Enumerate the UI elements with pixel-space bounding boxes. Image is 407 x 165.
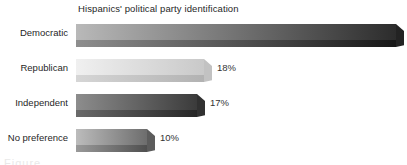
bar-row: No preference 10% xyxy=(0,127,407,162)
value-label-no-preference: 10% xyxy=(160,132,179,143)
caption-fragment: Figure xyxy=(4,157,41,165)
bar-republican xyxy=(76,59,204,84)
bar-top-face xyxy=(76,94,197,110)
chart-title: Hispanics' political party identificatio… xyxy=(78,3,239,14)
category-label-democratic: Democratic xyxy=(0,27,76,38)
bar-row: Republican 18% xyxy=(0,57,407,92)
bar-end-cap xyxy=(147,129,155,152)
bar-top-face xyxy=(76,24,396,40)
bar-end-cap-face xyxy=(197,94,205,117)
value-label-republican: 18% xyxy=(217,62,236,73)
bar-rows: Democratic 45% Republican 18% Independen… xyxy=(0,22,407,162)
bar-end-cap-face xyxy=(204,59,212,82)
bar-top-face xyxy=(76,129,147,145)
bar-row: Independent 17% xyxy=(0,92,407,127)
bar-end-cap xyxy=(204,59,212,82)
bar-end-cap xyxy=(396,24,404,47)
bar-row: Democratic 45% xyxy=(0,22,407,57)
bar-democratic xyxy=(76,24,396,49)
bar-side-face xyxy=(76,40,396,47)
bar-side-face xyxy=(76,145,147,152)
bar-top-face xyxy=(76,59,204,75)
bar-end-cap-face xyxy=(396,24,404,47)
bar-no-preference xyxy=(76,129,147,154)
bar-side-face xyxy=(76,75,204,82)
bar-independent xyxy=(76,94,197,119)
value-label-independent: 17% xyxy=(210,97,229,108)
category-label-no-preference: No preference xyxy=(0,132,76,143)
bar-end-cap xyxy=(197,94,205,117)
bar-chart: Hispanics' political party identificatio… xyxy=(0,0,407,165)
bar-end-cap-face xyxy=(147,129,155,152)
category-label-republican: Republican xyxy=(0,62,76,73)
bar-side-face xyxy=(76,110,197,117)
category-label-independent: Independent xyxy=(0,97,76,108)
